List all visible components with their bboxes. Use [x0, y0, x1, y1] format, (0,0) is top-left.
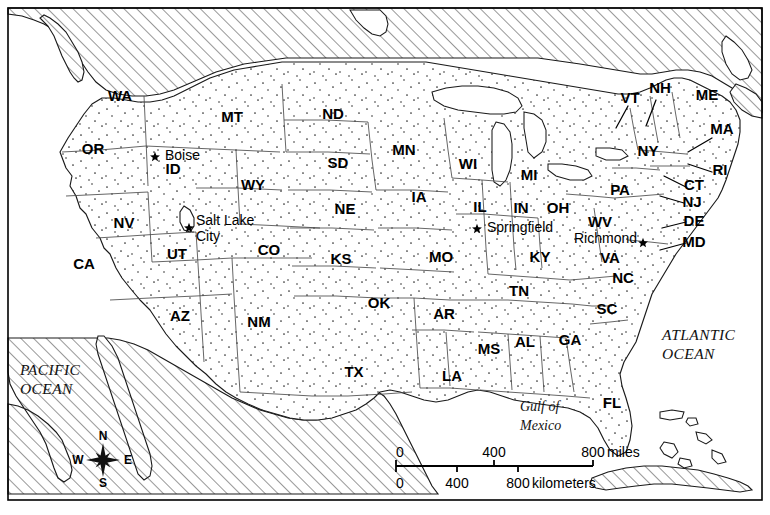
state-label-ut: UT: [167, 245, 187, 262]
state-label-md: MD: [682, 233, 705, 250]
scale-tick-label-kilometers-2: 800: [506, 475, 530, 491]
state-label-sd: SD: [328, 154, 349, 171]
state-label-mo: MO: [429, 248, 453, 265]
state-label-nj: NJ: [682, 193, 701, 210]
city-label-salt-lake-city: City: [196, 228, 220, 244]
state-label-ky: KY: [530, 248, 551, 265]
state-label-mn: MN: [392, 141, 415, 158]
water-label-pacific-ocean: OCEAN: [20, 380, 74, 397]
city-label-springfield: Springfield: [487, 219, 553, 235]
state-label-mi: MI: [521, 166, 538, 183]
state-label-fl: FL: [603, 394, 621, 411]
state-label-in: IN: [514, 199, 529, 216]
state-label-ca: CA: [73, 255, 95, 272]
state-label-tn: TN: [509, 282, 529, 299]
state-label-ct: CT: [684, 176, 704, 193]
state-label-ne: NE: [335, 200, 356, 217]
state-label-la: LA: [442, 367, 462, 384]
state-label-ia: IA: [412, 188, 427, 205]
state-label-az: AZ: [170, 307, 190, 324]
city-label-boise: Boise: [165, 147, 200, 163]
state-label-co: CO: [258, 241, 281, 258]
state-label-ma: MA: [710, 120, 733, 137]
scale-tick-label-kilometers-0: 0: [396, 475, 404, 491]
scale-tick-label-miles-0: 0: [396, 444, 404, 460]
water-label-gulf-of-mexico: Mexico: [519, 418, 561, 433]
state-label-ny: NY: [638, 142, 659, 159]
state-label-va: VA: [600, 249, 620, 266]
state-label-ms: MS: [478, 340, 501, 357]
state-label-nh: NH: [649, 79, 671, 96]
city-label-richmond: Richmond: [574, 230, 637, 246]
state-label-wv: WV: [588, 213, 612, 230]
compass-point-w: W: [72, 453, 84, 467]
state-label-wy: WY: [241, 176, 265, 193]
state-label-me: ME: [696, 86, 719, 103]
state-label-ga: GA: [559, 331, 582, 348]
water-label-pacific-ocean: PACIFIC: [19, 361, 80, 378]
state-label-wa: WA: [108, 87, 132, 104]
state-label-nm: NM: [247, 313, 270, 330]
state-label-vt: VT: [620, 89, 639, 106]
water-label-gulf-of-mexico: Gulf of: [520, 399, 561, 414]
state-label-nv: NV: [114, 214, 135, 231]
city-label-salt-lake-city: Salt Lake: [196, 212, 255, 228]
state-label-ri: RI: [713, 161, 728, 178]
scale-tick-label-miles-1: 400: [482, 444, 506, 460]
compass-point-n: N: [99, 429, 108, 443]
state-label-ks: KS: [331, 250, 352, 267]
state-label-tx: TX: [344, 363, 363, 380]
state-label-de: DE: [684, 212, 705, 229]
state-label-il: IL: [473, 198, 486, 215]
state-label-pa: PA: [610, 181, 630, 198]
scale-unit-miles: miles: [607, 444, 640, 460]
state-label-sc: SC: [597, 300, 618, 317]
scale-tick-label-kilometers-1: 400: [445, 475, 469, 491]
state-label-al: AL: [515, 333, 535, 350]
map-canvas: WAORCANVIDMTWYUTAZNMCONDSDNEKSOKTXMNIAMO…: [0, 0, 770, 515]
compass-point-e: E: [124, 453, 132, 467]
state-label-ok: OK: [368, 294, 391, 311]
state-label-or: OR: [82, 140, 105, 157]
scale-tick-label-miles-2: 800: [581, 444, 605, 460]
state-label-oh: OH: [547, 199, 570, 216]
water-label-atlantic-ocean: ATLANTIC: [661, 326, 736, 343]
compass-point-s: S: [99, 476, 107, 490]
water-label-atlantic-ocean: OCEAN: [662, 345, 716, 362]
scale-unit-kilometers: kilometers: [532, 475, 596, 491]
us-states-map: WAORCANVIDMTWYUTAZNMCONDSDNEKSOKTXMNIAMO…: [0, 0, 770, 515]
state-label-mt: MT: [221, 108, 243, 125]
state-label-nd: ND: [322, 105, 344, 122]
state-label-nc: NC: [612, 269, 634, 286]
state-label-wi: WI: [459, 155, 477, 172]
state-label-ar: AR: [433, 305, 455, 322]
